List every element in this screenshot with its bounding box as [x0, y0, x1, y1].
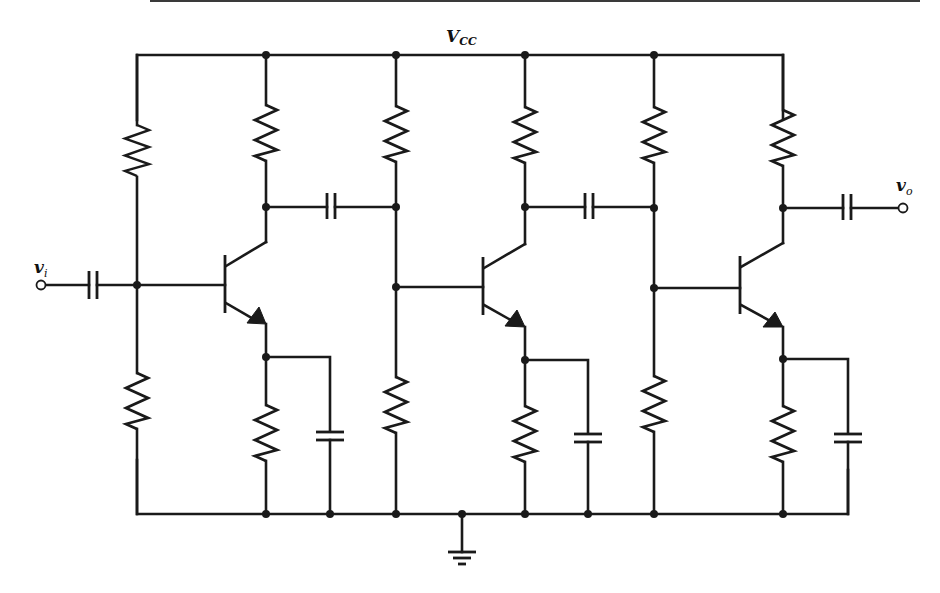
emitter-resistor-2-icon — [514, 360, 536, 514]
npn-transistor-2-icon — [483, 207, 525, 360]
coupling-capacitor-2-3-icon — [525, 193, 654, 219]
collector-resistor-2-icon — [514, 55, 536, 207]
emitter-resistor-1-icon — [255, 357, 277, 514]
stage-3 — [643, 55, 899, 514]
stage-2 — [385, 55, 654, 514]
emitter-bypass-capacitor-2-icon — [574, 434, 602, 514]
svg-text:vi: vi — [34, 257, 47, 280]
bias-resistor-top-icon — [643, 55, 665, 288]
input-terminal: vi — [34, 257, 89, 290]
input-coupling-capacitor-icon — [89, 271, 137, 299]
collector-resistor-3-icon — [772, 55, 794, 208]
ground-icon — [448, 514, 476, 564]
bias-resistor-top-icon — [125, 55, 149, 285]
vcc-rail — [137, 51, 783, 120]
bias-resistor-bottom-icon — [643, 288, 665, 514]
vcc-label: VCC — [446, 26, 477, 48]
npn-transistor-1-icon — [225, 207, 266, 357]
stage-1 — [125, 55, 396, 514]
output-coupling-capacitor-icon — [783, 194, 899, 220]
emitter-bypass-capacitor-3-icon — [834, 434, 862, 514]
amplifier-schematic: VCC vi — [0, 0, 940, 593]
npn-transistor-3-icon — [740, 208, 783, 359]
emitter-resistor-3-icon — [772, 359, 794, 514]
emitter-bypass-capacitor-1-icon — [316, 432, 344, 514]
collector-resistor-1-icon — [255, 55, 277, 207]
output-terminal: vo — [896, 175, 913, 213]
coupling-capacitor-1-2-icon — [266, 193, 396, 219]
bias-resistor-bottom-icon — [385, 287, 407, 514]
bias-resistor-bottom-icon — [126, 285, 148, 514]
svg-text:vo: vo — [896, 175, 913, 198]
ground-rail — [137, 460, 848, 518]
bias-resistor-top-icon — [385, 55, 407, 287]
